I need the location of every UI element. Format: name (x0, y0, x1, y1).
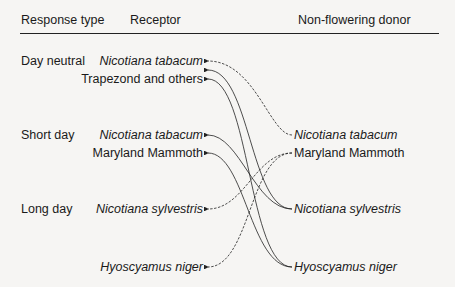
arrow-hyo-to-mm (208, 153, 292, 267)
arrow-nsyl-to-sd-ntab (208, 135, 292, 209)
arrow-mm-to-nsyl (208, 153, 292, 209)
arrow-hyo-to-trapezond (208, 79, 292, 267)
connection-arrows (0, 0, 455, 287)
arrow-nsyl-to-dn (208, 70, 292, 209)
arrow-mm-to-hyo (208, 153, 292, 267)
arrow-ntab-to-dn-ntab (208, 61, 292, 135)
